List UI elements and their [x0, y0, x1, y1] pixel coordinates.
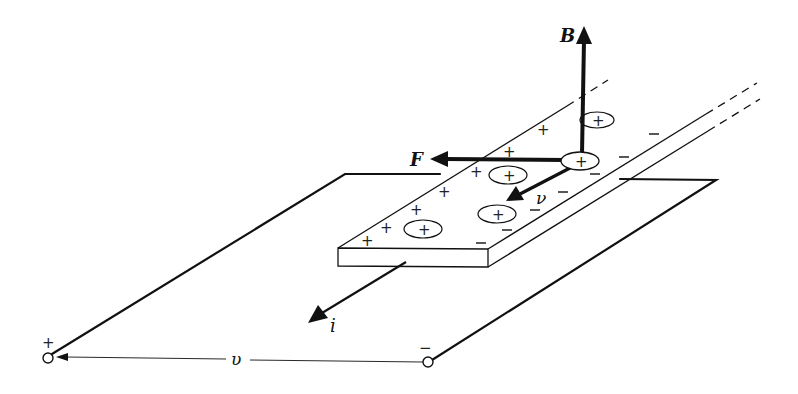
strip-front-face: [338, 248, 488, 267]
charge-carrier: +: [478, 205, 516, 224]
force-label: F: [409, 149, 424, 170]
positive-surface-charges: + + + + + + +: [361, 121, 550, 250]
strip-left-edge: [338, 106, 567, 248]
svg-text:+: +: [575, 153, 588, 171]
strip-left-edge-dashed: [567, 80, 608, 106]
current-arrow: i: [308, 262, 406, 336]
magnetic-field-arrowhead-icon: [576, 26, 592, 44]
circuit-wires: [52, 174, 716, 360]
positive-charge: +: [537, 121, 550, 139]
voltage-label: υ: [231, 349, 241, 369]
right-lead-wire: [432, 179, 716, 360]
svg-text:+: +: [592, 112, 605, 130]
positive-terminal-label: +: [42, 334, 55, 352]
force-arrow: F: [409, 149, 566, 170]
charge-carrier: +: [580, 112, 614, 130]
positive-charge: +: [470, 163, 483, 181]
magnetic-field-arrow: B: [559, 25, 592, 154]
positive-terminal-icon[interactable]: [43, 353, 53, 363]
svg-text:+: +: [503, 167, 516, 185]
magnetic-field-label: B: [559, 25, 575, 46]
strip-right-top-edge-dashed: [706, 83, 757, 114]
positive-charge: +: [380, 219, 393, 237]
positive-charge: +: [410, 201, 423, 219]
svg-text:+: +: [492, 206, 505, 224]
voltage-arrow-line-left: [66, 357, 226, 359]
charge-carrier: +: [404, 220, 442, 239]
charge-carrier: +: [489, 166, 527, 185]
current-label: i: [330, 315, 336, 336]
voltage-measurement: υ + −: [42, 334, 433, 369]
voltage-arrow-line-right: [250, 360, 423, 362]
negative-terminal-label: −: [419, 339, 432, 357]
negative-terminal-icon[interactable]: [423, 357, 433, 367]
svg-text:+: +: [418, 221, 431, 239]
strip-right-bottom-edge-dashed: [708, 99, 760, 131]
positive-charge: +: [361, 232, 374, 250]
force-arrowhead-icon: [430, 151, 448, 167]
voltage-arrowhead-icon: [56, 353, 68, 361]
velocity-label: ν: [536, 188, 546, 208]
current-arrowhead-icon: [308, 305, 328, 323]
positive-charge: +: [438, 183, 451, 201]
hall-effect-diagram: i υ + − + + + + + + + +: [0, 0, 798, 394]
